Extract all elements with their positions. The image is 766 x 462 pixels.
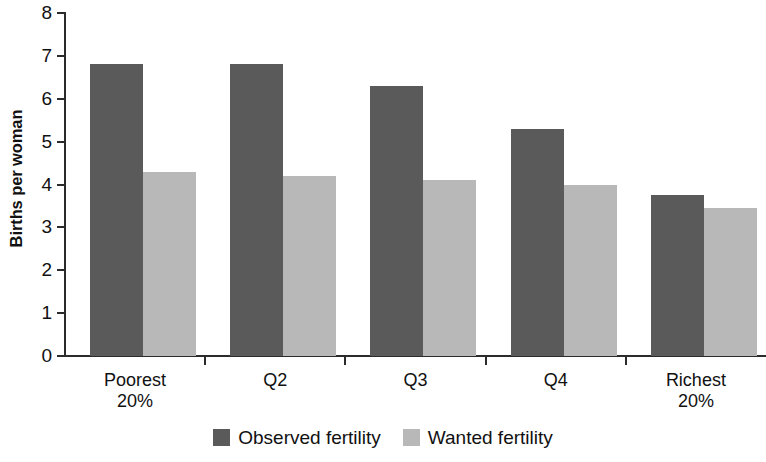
x-axis-category-label: Q2 [205, 370, 345, 391]
y-axis-tick [57, 226, 65, 228]
x-axis-category-label: Q4 [486, 370, 626, 391]
legend-swatch-icon [403, 429, 420, 446]
y-axis-tick-label: 0 [12, 346, 52, 365]
y-axis-tick [57, 184, 65, 186]
y-axis-tick [57, 55, 65, 57]
legend-item-observed: Observed fertility [213, 428, 381, 447]
category-label-line1: Q3 [403, 370, 427, 390]
category-label-line1: Q4 [544, 370, 568, 390]
bar-chart: Births per woman 876543210 Poorest20%Q2Q… [0, 0, 766, 462]
y-axis-tick-label: 2 [12, 260, 52, 279]
x-axis-tick [485, 356, 487, 365]
y-axis-tick-label: 1 [12, 303, 52, 322]
category-label-line1: Q2 [263, 370, 287, 390]
bar-wanted-2 [423, 180, 476, 356]
x-axis-category-label: Richest20% [626, 370, 766, 412]
y-axis-tick-label: 3 [12, 217, 52, 236]
bar-observed-4 [651, 195, 704, 356]
y-axis-tick-label: 8 [12, 3, 52, 22]
y-axis-tick [57, 312, 65, 314]
bar-observed-1 [230, 64, 283, 356]
category-label-line1: Richest [666, 370, 726, 390]
bar-wanted-0 [143, 172, 196, 356]
y-axis-tick-label: 6 [12, 89, 52, 108]
x-axis-tick [204, 356, 206, 365]
bar-observed-2 [370, 86, 423, 356]
legend-label: Observed fertility [238, 428, 381, 447]
legend-item-wanted: Wanted fertility [403, 428, 553, 447]
bar-observed-3 [511, 129, 564, 356]
legend-label: Wanted fertility [428, 428, 553, 447]
y-axis-tick-label: 7 [12, 46, 52, 65]
y-axis-tick-label: 5 [12, 132, 52, 151]
bar-wanted-4 [704, 208, 757, 356]
x-axis-tick [344, 356, 346, 365]
category-label-line2: 20% [65, 391, 205, 412]
bar-wanted-3 [564, 185, 617, 357]
category-label-line1: Poorest [104, 370, 166, 390]
legend-swatch-icon [213, 429, 230, 446]
chart-legend: Observed fertilityWanted fertility [0, 428, 766, 447]
bar-observed-0 [90, 64, 143, 356]
x-axis-category-label: Poorest20% [65, 370, 205, 412]
y-axis-tick [57, 141, 65, 143]
y-axis-tick [57, 355, 65, 357]
y-axis-tick [57, 98, 65, 100]
bar-wanted-1 [283, 176, 336, 356]
y-axis-tick [57, 12, 65, 14]
y-axis-tick-label: 4 [12, 175, 52, 194]
category-label-line2: 20% [626, 391, 766, 412]
x-axis-tick [625, 356, 627, 365]
y-axis-tick [57, 269, 65, 271]
x-axis-category-label: Q3 [345, 370, 485, 391]
